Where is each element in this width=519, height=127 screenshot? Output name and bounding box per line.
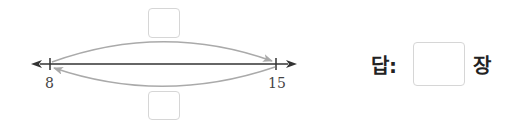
end-value-label: 15 — [268, 75, 286, 91]
bottom-answer-box[interactable] — [148, 91, 180, 120]
backward-arc — [54, 67, 275, 86]
top-answer-box[interactable] — [148, 8, 180, 38]
forward-arc — [52, 42, 272, 62]
start-value-label: 8 — [45, 75, 54, 91]
unit-label: 장 — [473, 50, 491, 79]
final-answer-box[interactable] — [413, 42, 465, 86]
answer-label: 답: — [371, 50, 397, 79]
